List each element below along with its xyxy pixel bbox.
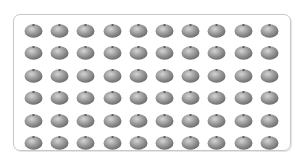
fruit-grid [0, 0, 303, 159]
tomato-icon [129, 89, 148, 105]
tomato-icon [129, 67, 148, 83]
tomato-icon [50, 44, 69, 60]
tomato-icon [129, 44, 148, 60]
tomato-icon [260, 67, 279, 83]
tomato-icon [260, 89, 279, 105]
tomato-icon [24, 44, 43, 60]
tomato-icon [207, 44, 226, 60]
tomato-icon [207, 134, 226, 150]
tomato-icon [207, 112, 226, 128]
tomato-icon [234, 89, 253, 105]
tomato-icon [50, 89, 69, 105]
tomato-icon [50, 112, 69, 128]
tomato-icon [181, 22, 200, 38]
tomato-icon [155, 22, 174, 38]
tomato-icon [207, 22, 226, 38]
tomato-icon [103, 89, 122, 105]
tomato-icon [155, 134, 174, 150]
tomato-icon [207, 67, 226, 83]
tomato-icon [24, 89, 43, 105]
tomato-icon [76, 112, 95, 128]
tomato-icon [129, 134, 148, 150]
tomato-icon [260, 44, 279, 60]
tomato-icon [181, 112, 200, 128]
tomato-icon [234, 67, 253, 83]
tomato-icon [155, 112, 174, 128]
tomato-icon [50, 67, 69, 83]
tomato-icon [155, 67, 174, 83]
tomato-icon [76, 134, 95, 150]
tomato-icon [155, 44, 174, 60]
tomato-icon [129, 22, 148, 38]
tomato-icon [24, 67, 43, 83]
tomato-icon [103, 67, 122, 83]
tomato-icon [234, 112, 253, 128]
tomato-icon [181, 67, 200, 83]
tomato-icon [103, 134, 122, 150]
tomato-icon [103, 112, 122, 128]
tomato-icon [103, 44, 122, 60]
tomato-icon [181, 134, 200, 150]
tomato-icon [24, 134, 43, 150]
tomato-icon [76, 67, 95, 83]
tomato-icon [24, 112, 43, 128]
tomato-icon [234, 44, 253, 60]
tomato-icon [76, 22, 95, 38]
tomato-icon [207, 89, 226, 105]
tomato-icon [129, 112, 148, 128]
tomato-icon [260, 22, 279, 38]
tomato-icon [155, 89, 174, 105]
tomato-icon [181, 44, 200, 60]
tomato-icon [76, 89, 95, 105]
tomato-icon [50, 22, 69, 38]
tomato-icon [260, 134, 279, 150]
tomato-icon [234, 134, 253, 150]
tomato-icon [260, 112, 279, 128]
tomato-icon [181, 89, 200, 105]
tomato-icon [76, 44, 95, 60]
tomato-icon [234, 22, 253, 38]
tomato-icon [103, 22, 122, 38]
tomato-icon [50, 134, 69, 150]
tomato-icon [24, 22, 43, 38]
